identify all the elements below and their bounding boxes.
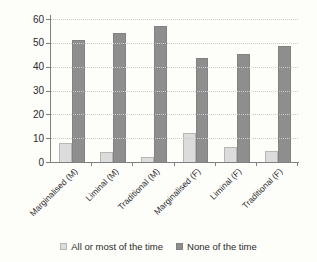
legend: All or most of the timeNone of the time	[0, 241, 317, 252]
bar-dark-3	[154, 26, 167, 162]
bar-dark-2	[113, 33, 126, 162]
y-tick-label-10: 10	[12, 133, 44, 144]
bar-light-5	[224, 147, 237, 162]
bar-dark-6	[278, 46, 291, 162]
y-tick-40	[46, 67, 50, 68]
y-tick-label-40: 40	[12, 61, 44, 72]
x-tick-5	[256, 163, 257, 166]
y-tick-10	[46, 138, 50, 139]
y-tick-50	[46, 43, 50, 44]
y-tick-label-30: 30	[12, 85, 44, 96]
gridline-y-20	[51, 114, 298, 115]
x-tick-6	[297, 163, 298, 166]
y-tick-20	[46, 114, 50, 115]
gridline-y-30	[51, 91, 298, 92]
gridline-y-50	[51, 43, 298, 44]
x-tick-2	[132, 163, 133, 166]
bar-dark-4	[196, 58, 209, 162]
legend-swatch-1	[60, 243, 67, 250]
legend-label-2: None of the time	[187, 241, 257, 252]
y-tick-30	[46, 91, 50, 92]
x-tick-4	[215, 163, 216, 166]
bar-light-6	[265, 151, 278, 162]
x-tick-1	[91, 163, 92, 166]
bar-chart: All or most of the timeNone of the time …	[0, 0, 317, 262]
y-tick-60	[46, 19, 50, 20]
gridline-y-40	[51, 67, 298, 68]
y-tick-label-20: 20	[12, 109, 44, 120]
x-tick-3	[174, 163, 175, 166]
bar-dark-1	[72, 40, 85, 162]
y-tick-0	[46, 162, 50, 163]
x-axis-line	[50, 162, 299, 163]
legend-swatch-2	[176, 243, 183, 250]
bar-light-3	[141, 157, 154, 162]
legend-item-2: None of the time	[176, 241, 257, 252]
gridline-y-10	[51, 138, 298, 139]
y-tick-label-50: 50	[12, 37, 44, 48]
y-tick-label-0: 0	[12, 157, 44, 168]
legend-label-1: All or most of the time	[71, 241, 163, 252]
bar-light-1	[59, 143, 72, 162]
gridline-y-60	[51, 19, 298, 20]
legend-item-1: All or most of the time	[60, 241, 163, 252]
bar-light-2	[100, 152, 113, 162]
bar-dark-5	[237, 54, 250, 162]
y-tick-label-60: 60	[12, 14, 44, 25]
